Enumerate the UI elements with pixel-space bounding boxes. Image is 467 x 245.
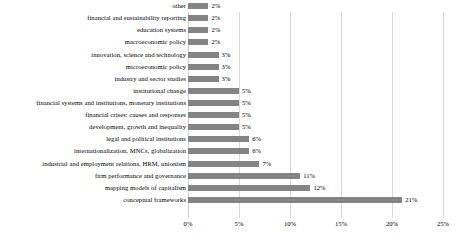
x-tick-label: 5% (235, 219, 244, 228)
bar-value-label: 12% (313, 184, 325, 192)
bar-value-label: 3% (222, 51, 231, 59)
bar (188, 39, 208, 45)
bar-wrapper (188, 173, 300, 179)
bar-row: industrial and employment relations, HRM… (0, 158, 467, 170)
bar (188, 3, 208, 9)
bar-wrapper (188, 124, 239, 130)
bar-value-label: 5% (242, 123, 251, 131)
category-label: macroeconomic policy (125, 38, 186, 46)
bar (188, 76, 219, 82)
category-label: firm performance and governance (95, 172, 186, 180)
bar-wrapper (188, 148, 249, 154)
category-label: financial and sustainability reporting (87, 14, 186, 22)
x-tick-label: 0% (184, 219, 193, 228)
bar-row: firm performance and governance11% (0, 170, 467, 182)
bar-row: internationalization, MNCs, globalizatio… (0, 145, 467, 157)
x-tick-label: 25% (437, 219, 449, 228)
bar (188, 52, 219, 58)
category-label: institutional change (133, 87, 186, 95)
x-tick-label: 15% (335, 219, 347, 228)
bar-value-label: 5% (242, 111, 251, 119)
bar (188, 136, 249, 142)
bar-row: development, growth and inequality5% (0, 121, 467, 133)
bar-wrapper (188, 88, 239, 94)
bar-row: legal and political institutions6% (0, 133, 467, 145)
bar (188, 15, 208, 21)
bar-rows: other2%financial and sustainability repo… (0, 0, 467, 206)
category-label: conceptual frameworks (123, 196, 186, 204)
bar-row: financial crises: causes and responses5% (0, 109, 467, 121)
bar-wrapper (188, 64, 219, 70)
bar-row: macroeconomic policy2% (0, 36, 467, 48)
bar-value-label: 5% (242, 87, 251, 95)
category-label: microeconomic policy (126, 63, 186, 71)
bar-value-label: 7% (262, 160, 271, 168)
bar-value-label: 2% (211, 38, 220, 46)
bar (188, 197, 402, 203)
bar (188, 112, 239, 118)
category-label: other (172, 2, 186, 10)
bar (188, 161, 259, 167)
bar-row: innovation, science and technology3% (0, 48, 467, 60)
bar-wrapper (188, 136, 249, 142)
bar-value-label: 11% (303, 172, 315, 180)
bar-row: industry and sector studies3% (0, 73, 467, 85)
bar-wrapper (188, 100, 239, 106)
bar (188, 27, 208, 33)
category-label: innovation, science and technology (91, 51, 186, 59)
bar-row: education systems2% (0, 24, 467, 36)
bar-value-label: 2% (211, 2, 220, 10)
bar (188, 124, 239, 130)
bar-wrapper (188, 112, 239, 118)
bar-row: conceptual frameworks21% (0, 194, 467, 206)
category-label: financial systems and institutions, mone… (36, 99, 186, 107)
bar-wrapper (188, 185, 310, 191)
bar (188, 173, 300, 179)
bar-wrapper (188, 76, 219, 82)
bar (188, 88, 239, 94)
bar-value-label: 3% (222, 63, 231, 71)
category-label: mapping models of capitalism (105, 184, 186, 192)
bar-wrapper (188, 15, 208, 21)
category-label: industrial and employment relations, HRM… (42, 160, 186, 168)
bar-wrapper (188, 161, 259, 167)
category-label: industry and sector studies (115, 75, 187, 83)
bar (188, 185, 310, 191)
bar-value-label: 2% (211, 26, 220, 34)
x-tick-label: 20% (386, 219, 398, 228)
bar-row: financial and sustainability reporting2% (0, 12, 467, 24)
category-label: internationalization, MNCs, globalizatio… (74, 147, 186, 155)
bar-wrapper (188, 3, 208, 9)
bar-chart: other2%financial and sustainability repo… (0, 0, 467, 245)
bar-value-label: 6% (252, 135, 261, 143)
bar-row: microeconomic policy3% (0, 61, 467, 73)
bar-value-label: 3% (222, 75, 231, 83)
bar-row: mapping models of capitalism12% (0, 182, 467, 194)
bar-row: institutional change5% (0, 85, 467, 97)
bar-wrapper (188, 27, 208, 33)
x-axis: 0%5%10%15%20%25% (188, 219, 443, 233)
bar-row: financial systems and institutions, mone… (0, 97, 467, 109)
bar-value-label: 21% (405, 196, 417, 204)
category-label: financial crises: causes and responses (85, 111, 186, 119)
bar-wrapper (188, 39, 208, 45)
category-label: legal and political institutions (106, 135, 186, 143)
bar-value-label: 2% (211, 14, 220, 22)
bar (188, 64, 219, 70)
bar-wrapper (188, 197, 402, 203)
bar-value-label: 6% (252, 147, 261, 155)
x-tick-label: 10% (284, 219, 296, 228)
bar (188, 148, 249, 154)
category-label: development, growth and inequality (89, 123, 186, 131)
category-label: education systems (137, 26, 186, 34)
bar-value-label: 5% (242, 99, 251, 107)
bar-wrapper (188, 52, 219, 58)
bar-row: other2% (0, 0, 467, 12)
bar (188, 100, 239, 106)
